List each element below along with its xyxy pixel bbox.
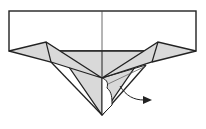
fold-arrow-icon [120, 86, 144, 100]
arrowhead-icon [143, 96, 152, 104]
origami-diagram [0, 0, 206, 129]
